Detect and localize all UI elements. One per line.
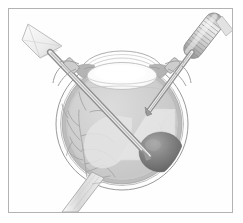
infusion-funnel-head[interactable] [22, 24, 62, 58]
crystalline-lens [87, 63, 157, 90]
figure-frame [0, 0, 243, 223]
eye-vitrectomy-illustration [0, 0, 243, 223]
